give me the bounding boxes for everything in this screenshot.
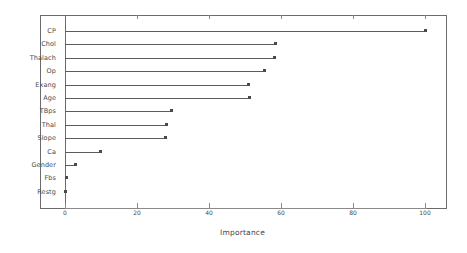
category-label: Thalach [0,52,56,65]
x-axis-title: Importance [0,228,467,237]
value-point [248,96,251,99]
chart-row: Thal [0,119,467,132]
category-label: Chol [0,38,56,51]
x-tick-top [137,15,138,19]
category-label: Slope [0,132,56,145]
category-label: CP [0,25,56,38]
value-line [65,44,276,45]
category-label: Fbs [0,172,56,185]
chart-row: Fbs [0,172,467,185]
x-tick-label: 60 [277,209,285,216]
chart-row: Ca [0,146,467,159]
x-tick-label: 80 [349,209,357,216]
value-line [65,31,425,32]
x-tick-label: 20 [133,209,141,216]
x-axis-title-label: Importance [220,228,265,237]
value-point [274,42,277,45]
value-line [65,125,167,126]
category-label: Thal [0,119,56,132]
category-label: Restg [0,186,56,199]
x-tick-top [209,15,210,19]
feature-importance-chart: CPCholThalachOpExangAgeTBpsThalSlopeCaGe… [0,0,467,253]
value-point [165,123,168,126]
value-point [74,163,77,166]
chart-row: Slope [0,132,467,145]
x-tick-label: 40 [205,209,213,216]
chart-row: Gender [0,159,467,172]
x-axis-line [65,208,427,209]
x-tick [353,203,354,208]
category-label: Age [0,92,56,105]
chart-row: Op [0,65,467,78]
chart-row: Age [0,92,467,105]
category-label: TBps [0,105,56,118]
x-tick [281,203,282,208]
category-label: Ca [0,146,56,159]
value-point [164,136,167,139]
value-line [65,58,275,59]
category-label: Exang [0,79,56,92]
value-point [65,176,68,179]
value-line [65,71,264,72]
value-line [65,111,172,112]
value-line [65,98,250,99]
value-point [64,190,67,193]
value-point [263,69,266,72]
chart-row: Exang [0,79,467,92]
value-point [424,29,427,32]
value-line [65,152,100,153]
value-point [99,150,102,153]
category-label: Gender [0,159,56,172]
value-line [65,85,249,86]
x-tick [425,203,426,208]
value-point [170,109,173,112]
chart-row: CP [0,25,467,38]
category-label: Op [0,65,56,78]
chart-row: TBps [0,105,467,118]
chart-row: Restg [0,186,467,199]
x-tick-label: 100 [419,209,430,216]
x-tick [65,203,66,208]
x-tick [209,203,210,208]
chart-row: Chol [0,38,467,51]
value-point [247,83,250,86]
x-tick-top [425,15,426,19]
chart-row: Thalach [0,52,467,65]
x-tick-top [281,15,282,19]
x-tick-top [353,15,354,19]
value-line [65,138,165,139]
x-tick [137,203,138,208]
value-point [273,56,276,59]
x-tick-label: 0 [63,209,67,216]
